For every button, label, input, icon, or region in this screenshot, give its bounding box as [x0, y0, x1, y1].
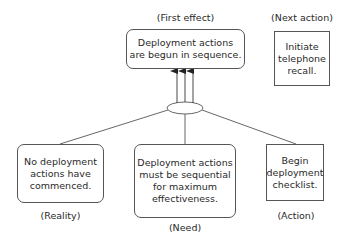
junction-ellipse	[167, 102, 203, 114]
action-line: Begin	[267, 155, 324, 167]
action-line: checklist.	[267, 179, 324, 191]
action-box: Begin deployment checklist.	[266, 144, 324, 201]
next-action-box: Initiate telephone recall.	[274, 31, 330, 86]
reality-line: commenced.	[24, 180, 97, 192]
reality-box: No deployment actions have commenced.	[17, 144, 104, 203]
reality-link	[60, 110, 168, 144]
need-line: must be sequential	[137, 169, 232, 181]
action-caption: (Action)	[256, 210, 336, 221]
next-action-line: recall.	[278, 65, 326, 77]
action-link	[202, 110, 296, 144]
next-action-line: telephone	[278, 53, 326, 65]
reality-line: actions have	[24, 168, 97, 180]
reality-caption: (Reality)	[17, 210, 104, 221]
reality-line: No deployment	[24, 156, 97, 168]
next-action-caption: (Next action)	[262, 12, 342, 23]
action-line: deployment	[267, 167, 324, 179]
next-action-line: Initiate	[278, 41, 326, 53]
need-line: Deployment actions	[137, 157, 232, 169]
need-box: Deployment actions must be sequential fo…	[134, 144, 236, 218]
need-caption: (Need)	[134, 222, 236, 233]
need-line: effectiveness.	[137, 193, 232, 205]
first-effect-line: are begun in sequence.	[130, 49, 242, 61]
first-effect-line: Deployment actions	[130, 37, 242, 49]
first-effect-caption: (First effect)	[126, 12, 245, 23]
first-effect-box: Deployment actions are begun in sequence…	[126, 29, 245, 69]
need-line: for maximum	[137, 181, 232, 193]
